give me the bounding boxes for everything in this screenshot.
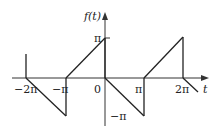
x-tick-label-2pi: 2π	[175, 83, 189, 96]
sawtooth-plot: f(t) t −2π −π 0 π 2π π −π	[0, 0, 219, 132]
x-axis-label: t	[203, 83, 208, 96]
x-axis-arrow-icon	[201, 75, 209, 81]
x-tick-label-zero: 0	[94, 83, 101, 96]
y-axis-label: f(t)	[83, 10, 101, 23]
x-tick-label-negpi: −π	[52, 83, 68, 96]
x-tick-label-pi: π	[135, 83, 142, 96]
y-axis-arrow-icon	[102, 12, 108, 20]
waveform	[26, 37, 198, 116]
y-tick-label-negpi: −π	[110, 110, 126, 123]
y-tick-label-pi: π	[94, 32, 101, 45]
x-tick-label-neg2pi: −2π	[14, 83, 37, 96]
